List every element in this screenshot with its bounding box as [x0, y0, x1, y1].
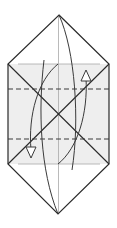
- origami-fold-diagram: [0, 0, 117, 228]
